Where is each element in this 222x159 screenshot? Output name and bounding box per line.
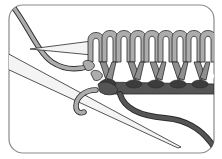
knitting-illustration	[0, 0, 222, 159]
